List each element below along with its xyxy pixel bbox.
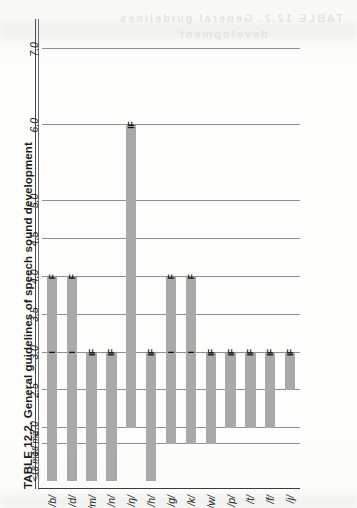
category-label-g: /g/	[165, 489, 177, 507]
title-rule-bottom	[38, 19, 39, 489]
category-label-row: /g/	[161, 19, 181, 489]
category-label-row: /k/	[181, 19, 201, 489]
axis-tick-label: 2.5	[28, 383, 42, 398]
title-rule-top	[35, 19, 36, 489]
category-label-p: /p/	[225, 489, 237, 507]
axis-tick-label: 2.0	[28, 421, 42, 436]
axis-tick-label: 3.0	[28, 345, 42, 360]
category-label-t: /t/	[244, 489, 256, 504]
axis-tick-label: 5.0	[28, 194, 42, 209]
axis-tick-label: 3.5	[28, 307, 42, 322]
category-label-ŋ: /ŋ/	[125, 489, 137, 507]
axis-tick-label: 4.5	[28, 232, 42, 247]
category-label-row: /h/	[141, 19, 161, 489]
category-label-n: /n/	[105, 489, 117, 507]
category-label-row: /j/	[280, 19, 300, 489]
category-label-j: /j/	[284, 489, 296, 503]
category-label-f: /f/	[264, 489, 276, 504]
axis-tick-label: 4.0	[28, 269, 42, 284]
category-label-k: /k/	[185, 489, 197, 506]
category-labels-layer: /b//d//m//n//ŋ//h//g//k//w//p//t//f//j/	[42, 19, 300, 489]
category-label-d: /d/	[66, 489, 78, 507]
category-label-row: /f/	[260, 19, 280, 489]
category-label-m: /m/	[86, 489, 98, 508]
category-label-row: /b/	[42, 19, 62, 489]
category-label-row: /p/	[221, 19, 241, 489]
category-label-row: /w/	[201, 19, 221, 489]
category-label-row: /t/	[240, 19, 260, 489]
category-label-row: /ŋ/	[121, 19, 141, 489]
axis-tick-label: 6.0	[28, 118, 42, 133]
category-label-row: /m/	[82, 19, 102, 489]
category-label-w: /w/	[205, 489, 217, 508]
table-title-row: TABLE 12.2. General guidelines of speech…	[14, 19, 34, 489]
table-figure: TABLE 12.2. General guidelines of speech…	[14, 19, 344, 489]
category-label-b: /b/	[46, 489, 58, 507]
axis-tick-label: 7.0	[28, 42, 42, 57]
category-label-row: /d/	[62, 19, 82, 489]
category-label-row: /n/	[102, 19, 122, 489]
category-label-h: /h/	[145, 489, 157, 507]
